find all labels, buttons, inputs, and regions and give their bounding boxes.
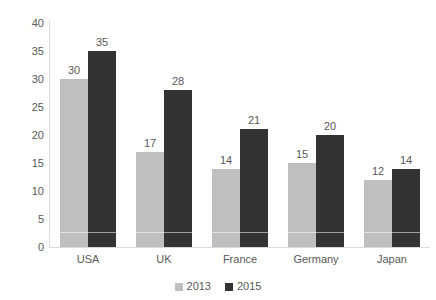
x-axis-category-label: USA [50,253,126,266]
legend-label: 2015 [237,281,261,292]
x-axis-category-labels: USAUKFranceGermanyJapan [50,253,430,266]
x-axis-category-label: France [202,253,278,266]
bar-column: 28 [164,0,192,247]
legend-swatch-icon [175,283,183,291]
y-axis-tick-label: 10 [0,186,44,197]
chart-legend: 20132015 [0,281,436,292]
x-axis-category-label: Germany [278,253,354,266]
bar-value-label: 15 [296,149,308,160]
x-axis-line [49,247,430,248]
bar-value-label: 35 [96,37,108,48]
x-axis-category-label: Japan [354,253,430,266]
bar-pair: 3035 [50,0,126,247]
y-axis-tick-label: 0 [0,242,44,253]
bar-2015[interactable] [240,129,268,247]
bar-pair: 1520 [278,0,354,247]
bar-group: 1520 [278,0,354,247]
bar-column: 14 [212,0,240,247]
bar-column: 17 [136,0,164,247]
y-axis-tick-label: 20 [0,130,44,141]
bar-2013[interactable] [364,180,392,247]
bar-column: 35 [88,0,116,247]
legend-label: 2013 [187,281,211,292]
bar-column: 30 [60,0,88,247]
y-axis-tick-label: 15 [0,158,44,169]
bar-column: 15 [288,0,316,247]
bar-value-label: 28 [172,76,184,87]
y-axis-tick-labels: 0510152025303540 [0,0,44,300]
y-axis-tick-label: 5 [0,214,44,225]
x-axis-category-label: UK [126,253,202,266]
legend-item-2015[interactable]: 2015 [225,281,261,292]
bar-value-label: 21 [248,115,260,126]
bar-group: 1421 [202,0,278,247]
bar-group: 1214 [354,0,430,247]
bar-2015[interactable] [316,135,344,247]
bar-2013[interactable] [212,169,240,247]
bar-2015[interactable] [392,169,420,247]
legend-item-2013[interactable]: 2013 [175,281,211,292]
bar-2013[interactable] [136,152,164,247]
bar-value-label: 30 [68,65,80,76]
bar-column: 21 [240,0,268,247]
bar-2013[interactable] [60,79,88,247]
bar-value-label: 17 [144,138,156,149]
y-axis-tick-label: 35 [0,46,44,57]
bar-2013[interactable] [288,163,316,247]
legend-swatch-icon [225,283,233,291]
bar-pair: 1214 [354,0,430,247]
bar-pair: 1728 [126,0,202,247]
bar-value-label: 20 [324,121,336,132]
bar-value-label: 12 [372,166,384,177]
bar-groups: 30351728142115201214 [50,0,430,247]
bar-2015[interactable] [164,90,192,247]
y-axis-tick-label: 25 [0,102,44,113]
bar-group: 3035 [50,0,126,247]
bar-value-label: 14 [220,155,232,166]
bar-group: 1728 [126,0,202,247]
bar-chart: 0510152025303540 30351728142115201214 US… [0,0,436,300]
y-axis-tick-label: 40 [0,18,44,29]
bar-column: 14 [392,0,420,247]
bar-2015[interactable] [88,51,116,247]
y-axis-tick-label: 30 [0,74,44,85]
bar-pair: 1421 [202,0,278,247]
bar-column: 12 [364,0,392,247]
bar-column: 20 [316,0,344,247]
bar-value-label: 14 [400,155,412,166]
